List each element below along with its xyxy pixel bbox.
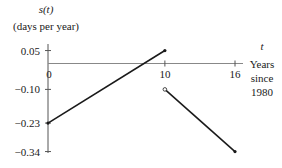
data-series <box>46 49 236 153</box>
x-tick-label: 0 <box>46 68 52 80</box>
x-axis-label-line2: since <box>251 72 274 84</box>
piecewise-linear-chart: s(t) (days per year) 0.05−0.10−0.23−0.34… <box>0 0 282 168</box>
y-tick-label: −0.10 <box>15 83 41 95</box>
closed-endpoint-marker <box>163 49 166 52</box>
closed-endpoint-marker <box>233 150 236 153</box>
y-axis-title: s(t) <box>39 3 54 16</box>
x-tick-label: 16 <box>230 68 242 80</box>
line-segment-1 <box>48 51 165 124</box>
x-tick-label: 10 <box>159 68 171 80</box>
y-axis-units: (days per year) <box>13 20 79 33</box>
x-axis-variable: t <box>260 40 264 52</box>
open-endpoint-marker <box>163 88 167 92</box>
y-tick-label: 0.05 <box>21 45 41 57</box>
x-axis-label-line1: Years <box>250 58 275 70</box>
x-axis-label-line3: 1980 <box>251 86 274 98</box>
y-tick-label: −0.34 <box>15 146 41 158</box>
y-tick-label: −0.23 <box>15 117 41 129</box>
closed-endpoint-marker <box>46 121 49 124</box>
line-segment-2 <box>165 89 235 151</box>
axes <box>48 44 243 153</box>
y-ticks: 0.05−0.10−0.23−0.34 <box>15 45 51 158</box>
